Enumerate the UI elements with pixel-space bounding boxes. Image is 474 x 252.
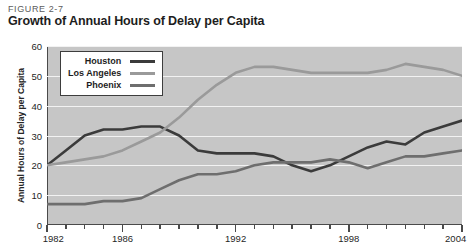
- x-tick-mark-minor: [216, 225, 218, 229]
- legend-item-phoenix[interactable]: Phoenix: [68, 79, 155, 91]
- x-tick-label: 2004: [445, 233, 466, 244]
- x-tick-mark-minor: [141, 225, 143, 229]
- y-tick-label: 0: [37, 220, 42, 231]
- legend-color-swatch: [130, 84, 155, 87]
- x-tick-mark-minor: [329, 225, 331, 229]
- x-tick-mark-major: [461, 225, 463, 232]
- page-title: Growth of Annual Hours of Delay per Capi…: [8, 14, 264, 28]
- x-tick-mark-major: [46, 225, 48, 232]
- x-tick-mark-minor: [367, 225, 369, 229]
- y-axis-title: Annual Hours of Delay per Capita: [15, 46, 27, 225]
- x-tick-mark-minor: [103, 225, 105, 229]
- x-tick-mark-minor: [178, 225, 180, 229]
- x-tick-mark-minor: [386, 225, 388, 229]
- figure-container: FIGURE 2-7 Growth of Annual Hours of Del…: [0, 0, 474, 252]
- x-tick-mark-major: [348, 225, 350, 232]
- x-tick-mark-minor: [424, 225, 426, 229]
- x-tick-mark-minor: [310, 225, 312, 229]
- y-tick-label: 50: [31, 70, 42, 81]
- series-line-phoenix: [47, 150, 462, 204]
- x-tick-mark-minor: [273, 225, 275, 229]
- x-tick-mark-minor: [159, 225, 161, 229]
- series-line-houston: [47, 121, 462, 172]
- x-tick-mark-major: [122, 225, 124, 232]
- x-tick-mark-minor: [405, 225, 407, 229]
- x-tick-mark-minor: [291, 225, 293, 229]
- x-tick-label: 1986: [112, 233, 133, 244]
- x-tick-mark-major: [235, 225, 237, 232]
- x-tick-mark-minor: [197, 225, 199, 229]
- legend-color-swatch: [130, 60, 155, 63]
- x-tick-mark-minor: [84, 225, 86, 229]
- y-tick-label: 30: [31, 130, 42, 141]
- chart-legend: HoustonLos AngelesPhoenix: [60, 51, 163, 96]
- legend-item-houston[interactable]: Houston: [68, 55, 155, 67]
- y-tick-label: 40: [31, 100, 42, 111]
- x-tick-mark-minor: [254, 225, 256, 229]
- x-tick-label: 1992: [225, 233, 246, 244]
- chart-plot-area: 0102030405060 19821986199219982004 Annua…: [47, 46, 462, 225]
- legend-item-los-angeles[interactable]: Los Angeles: [68, 67, 155, 79]
- x-tick-mark-minor: [442, 225, 444, 229]
- x-tick-label: 1998: [338, 233, 359, 244]
- y-tick-label: 10: [31, 190, 42, 201]
- x-tick-label: 1982: [43, 233, 64, 244]
- legend-color-swatch: [130, 72, 155, 75]
- figure-number: FIGURE 2-7: [8, 4, 64, 14]
- legend-item-label: Phoenix: [86, 80, 121, 90]
- legend-item-label: Houston: [85, 56, 122, 66]
- y-tick-label: 60: [31, 41, 42, 52]
- x-tick-mark-minor: [65, 225, 67, 229]
- y-tick-label: 20: [31, 160, 42, 171]
- legend-item-label: Los Angeles: [68, 68, 121, 78]
